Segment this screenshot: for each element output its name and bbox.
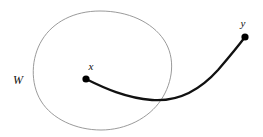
diagram-canvas: W x y [0, 0, 263, 137]
label-y: y [240, 17, 246, 29]
label-x: x [88, 60, 94, 72]
point-x-dot [82, 75, 89, 82]
point-y-dot [241, 33, 248, 40]
figure-container: W x y [0, 0, 263, 137]
path-curve-x-to-y [86, 37, 245, 100]
region-w-outline [33, 11, 171, 130]
label-w: W [13, 73, 24, 87]
